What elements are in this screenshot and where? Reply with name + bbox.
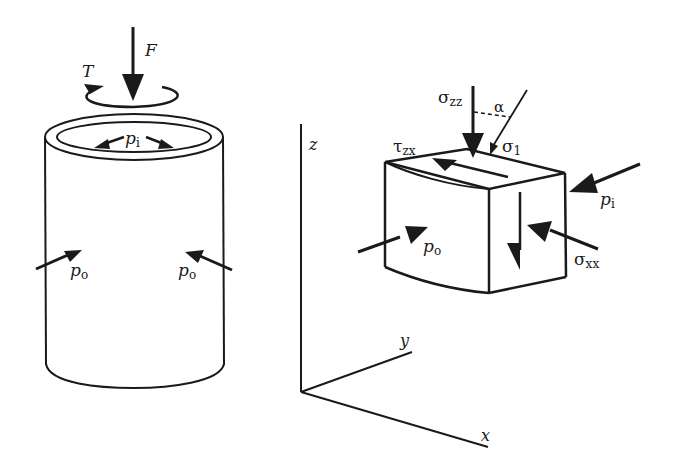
x-axis-label: x <box>481 426 490 445</box>
y-axis-label: y <box>399 331 410 350</box>
tau-zx-arrow <box>432 158 508 177</box>
tau-zx-label: τzx <box>393 136 416 158</box>
sigma-xx-arrow <box>527 221 598 249</box>
external-pressure-right-arrow <box>185 250 232 270</box>
axial-force-label: F <box>144 40 158 60</box>
external-pressure-left-label: po <box>70 260 88 282</box>
sigma-zz-arrow <box>462 86 484 158</box>
sigma-1-label: σ1 <box>502 136 521 158</box>
external-pressure-right-label: po <box>178 260 196 282</box>
sigma-xx-label: σxx <box>574 249 599 271</box>
element-bottom-left-edge <box>385 267 489 293</box>
element-right-edge <box>565 173 566 277</box>
p-o-label: po <box>423 236 441 258</box>
x-axis <box>301 392 488 447</box>
cylinder-bottom-edge <box>46 364 224 388</box>
tau-xz-arrow <box>507 192 520 270</box>
internal-pressure-label: pi <box>125 128 140 150</box>
axial-force-arrow <box>122 27 144 101</box>
z-axis-label: z <box>308 135 318 154</box>
torque-label: T <box>82 61 95 81</box>
cylinder-group: F T pi po <box>36 27 232 388</box>
sigma-zz-label: σzz <box>438 87 462 109</box>
alpha-label: α <box>494 98 504 116</box>
y-axis <box>301 352 412 392</box>
p-i-label: pi <box>600 189 615 211</box>
cylinder-right-wall <box>223 137 224 365</box>
axes-group: z y x <box>301 124 490 447</box>
figure-canvas: F T pi po <box>0 0 676 474</box>
p-o-arrow <box>358 226 428 252</box>
cylinder-left-wall <box>45 137 46 365</box>
stress-element-group: σzz α σ1 τzx pi σxx <box>358 86 640 293</box>
element-bottom-right-edge <box>489 277 566 293</box>
alpha-angle-line <box>474 112 510 117</box>
